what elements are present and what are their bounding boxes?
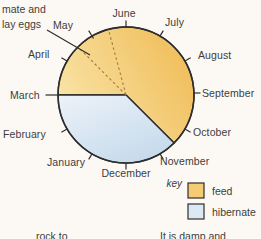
month-label-november: November (160, 155, 210, 167)
key-title: key (166, 178, 183, 189)
key-label-hibernate: hibernate (212, 206, 256, 218)
month-label-march: March (10, 89, 40, 101)
month-label-january: January (47, 156, 86, 168)
book-page-diagram: mate and lay eggs January February March… (0, 0, 261, 239)
tick-january (89, 154, 92, 160)
month-label-may: May (53, 19, 74, 31)
key-label-feed: feed (212, 185, 233, 197)
tick-april (61, 58, 67, 61)
page-text-fragment-left: rock to (36, 230, 68, 239)
annual-cycle-pie-chart: mate and lay eggs January February March… (0, 0, 261, 239)
tick-july (160, 31, 163, 36)
hibernate-swatch (188, 204, 204, 219)
tick-august (185, 58, 191, 61)
month-label-september: September (202, 87, 255, 99)
month-label-october: October (193, 126, 231, 138)
annotation-line2: lay eggs (2, 18, 41, 30)
month-label-december: December (101, 167, 151, 179)
month-label-february: February (3, 128, 46, 140)
tick-february (61, 129, 67, 132)
annotation-line1: mate and (2, 3, 46, 15)
page-text-fragment-right: It is damp and (160, 230, 226, 239)
feed-swatch (188, 183, 204, 198)
month-label-august: August (198, 49, 231, 61)
month-label-july: July (165, 16, 185, 28)
month-label-june: June (112, 7, 135, 19)
tick-october (185, 129, 191, 132)
month-label-april: April (28, 48, 50, 60)
